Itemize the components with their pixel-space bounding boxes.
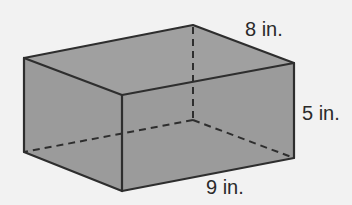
height-label: 5 in.: [302, 103, 340, 123]
depth-label: 8 in.: [245, 19, 283, 39]
length-label: 9 in.: [206, 177, 244, 197]
prism-diagram: 8 in. 5 in. 9 in.: [0, 0, 352, 205]
rectangular-prism-figure: [0, 0, 352, 205]
